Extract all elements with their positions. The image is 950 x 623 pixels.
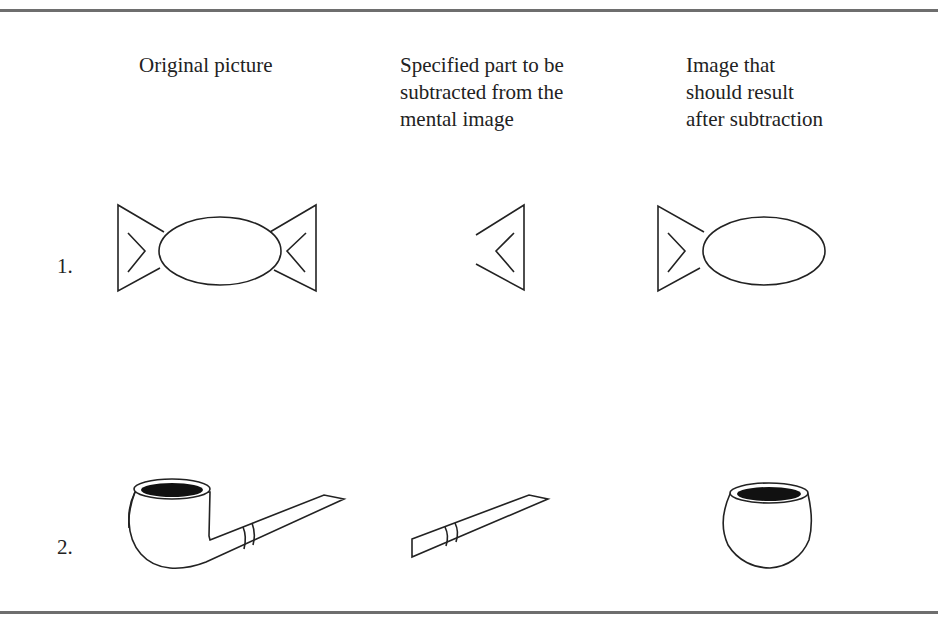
pipe-bowl-figure bbox=[723, 483, 811, 568]
figures bbox=[0, 0, 950, 623]
pipe-figure bbox=[129, 479, 344, 568]
candy-figure bbox=[118, 205, 316, 291]
fish-figure bbox=[658, 206, 825, 291]
wrapper-end-figure bbox=[476, 205, 524, 290]
pipe-stem-figure bbox=[412, 495, 548, 557]
